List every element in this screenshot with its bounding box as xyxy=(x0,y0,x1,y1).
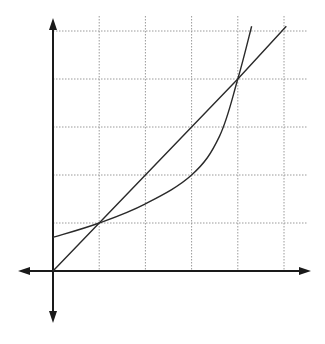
grid-lines xyxy=(53,16,308,271)
chart-canvas xyxy=(0,0,325,344)
axes xyxy=(18,18,311,323)
line-series xyxy=(53,26,286,271)
x-axis-right-arrow-icon xyxy=(299,267,311,275)
x-axis-left-arrow-icon xyxy=(18,267,30,275)
y-axis-down-arrow-icon xyxy=(49,311,57,323)
data-series xyxy=(53,26,286,271)
y-axis-up-arrow-icon xyxy=(49,18,57,30)
curve-series xyxy=(53,26,252,237)
